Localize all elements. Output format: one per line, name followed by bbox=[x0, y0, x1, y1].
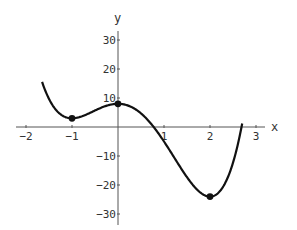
y-tick-label: 20 bbox=[103, 63, 116, 76]
x-tick-label: −1 bbox=[65, 130, 78, 143]
x-axis-label: x bbox=[271, 120, 278, 134]
y-tick-label: −10 bbox=[96, 150, 116, 163]
y-tick-label: −20 bbox=[96, 179, 116, 192]
y-tick-label: 30 bbox=[103, 34, 116, 47]
x-tick-label: −2 bbox=[19, 130, 32, 143]
function-plot: −2−1123302010−10−20−30 x y bbox=[0, 0, 297, 230]
y-tick-label: −30 bbox=[96, 208, 116, 221]
y-axis-label: y bbox=[114, 11, 121, 25]
axes bbox=[16, 31, 265, 225]
critical-point bbox=[207, 193, 214, 200]
x-tick-label: 3 bbox=[253, 130, 260, 143]
x-tick-label: 2 bbox=[207, 130, 214, 143]
critical-point bbox=[69, 115, 76, 122]
critical-point bbox=[115, 100, 122, 107]
